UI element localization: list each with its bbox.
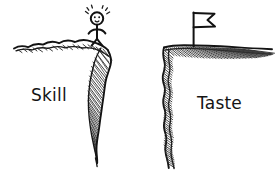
skill-cliff: Skill [14, 5, 112, 166]
flag-banner [194, 13, 215, 27]
sketch-canvas: Skill [0, 0, 276, 181]
skill-label: Skill [31, 85, 67, 105]
stick-figure-eye-right [98, 16, 100, 18]
taste-cliff: Taste [163, 13, 275, 169]
taste-label: Taste [196, 93, 242, 113]
flag [194, 13, 215, 47]
stick-figure-head [91, 12, 103, 24]
sketch-svg: Skill [0, 0, 276, 181]
stick-figure-arm-right [97, 29, 105, 33]
stick-figure-mouth [95, 21, 99, 22]
stick-figure-arm-left [89, 29, 97, 33]
stick-figure [86, 5, 110, 45]
stick-figure-eye-left [94, 16, 96, 18]
left-cliff-right-edge [96, 51, 111, 164]
left-cliff-slope-hatching [88, 49, 112, 156]
